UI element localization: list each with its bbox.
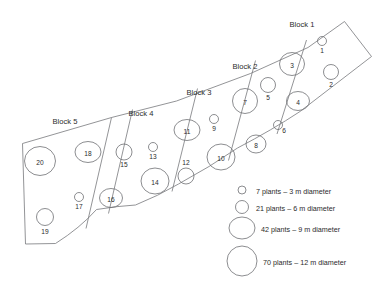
plot-label-15: 15 xyxy=(120,161,128,168)
legend-12m: 70 plants – 12 m diameter xyxy=(227,246,347,276)
block-divider-group xyxy=(86,40,307,229)
block-divider-5 xyxy=(86,118,112,229)
plot-label-12: 12 xyxy=(182,159,190,166)
plot-circle-12[interactable] xyxy=(178,168,194,184)
plot-label-3: 3 xyxy=(290,62,294,69)
legend-12m-text: 70 plants – 12 m diameter xyxy=(263,258,347,267)
plot-label-4: 4 xyxy=(296,99,300,106)
plot-14[interactable]: 14 xyxy=(141,168,169,194)
block-label-1: Block 1 xyxy=(290,20,315,29)
field-east-edge xyxy=(300,57,372,112)
plot-7[interactable]: 7 xyxy=(233,89,258,114)
block-label-2: Block 2 xyxy=(233,62,258,71)
plot-label-8: 8 xyxy=(254,142,258,149)
plot-label-17: 17 xyxy=(75,203,83,210)
plot-label-16: 16 xyxy=(107,196,115,203)
plot-circle-13[interactable] xyxy=(149,143,158,152)
block-divider-1 xyxy=(277,40,307,134)
plot-circle-2[interactable] xyxy=(324,65,339,80)
block-label-5: Block 5 xyxy=(53,117,78,126)
plot-circle-5[interactable] xyxy=(261,78,276,93)
plot-2[interactable]: 2 xyxy=(324,65,339,89)
plot-11[interactable]: 11 xyxy=(174,120,200,141)
plot-4[interactable]: 4 xyxy=(287,92,310,111)
plot-3[interactable]: 3 xyxy=(280,53,305,76)
plot-circle-9[interactable] xyxy=(210,115,219,124)
plot-19[interactable]: 19 xyxy=(37,209,54,236)
plot-13[interactable]: 13 xyxy=(149,143,158,161)
legend-6m-swatch xyxy=(236,201,249,214)
plot-16[interactable]: 16 xyxy=(100,189,123,208)
block-label-4: Block 4 xyxy=(129,109,154,118)
plot-circle-17[interactable] xyxy=(75,193,84,202)
plot-label-9: 9 xyxy=(212,125,216,132)
legend-3m-text: 7 plants – 3 m diameter xyxy=(256,187,332,196)
legend-6m: 21 plants – 6 m diameter xyxy=(236,201,336,214)
field-northeast-edge xyxy=(345,22,372,57)
plot-label-7: 7 xyxy=(243,99,247,106)
plot-17[interactable]: 17 xyxy=(75,193,84,211)
plot-label-20: 20 xyxy=(36,159,44,166)
plot-1[interactable]: 1 xyxy=(318,37,327,55)
legend-12m-swatch xyxy=(227,246,257,276)
plot-label-10: 10 xyxy=(217,155,225,162)
field-south-edge xyxy=(26,112,301,245)
figure-canvas: 1234567891011121314151617181920 Block 1B… xyxy=(0,0,373,294)
plot-9[interactable]: 9 xyxy=(210,115,219,133)
legend-9m-swatch xyxy=(229,217,255,239)
plot-5[interactable]: 5 xyxy=(261,78,276,102)
block-label-3: Block 3 xyxy=(187,88,212,97)
plot-label-13: 13 xyxy=(149,153,157,160)
plot-label-18: 18 xyxy=(84,150,92,157)
plot-label-14: 14 xyxy=(151,179,159,186)
plot-18[interactable]: 18 xyxy=(75,142,101,163)
field-diagram-svg: 1234567891011121314151617181920 Block 1B… xyxy=(0,0,373,294)
plot-label-11: 11 xyxy=(184,128,191,135)
legend: 7 plants – 3 m diameter21 plants – 6 m d… xyxy=(227,186,347,276)
plot-10[interactable]: 10 xyxy=(207,144,235,170)
plot-label-5: 5 xyxy=(266,94,270,101)
block-label-layer: Block 1Block 2Block 3Block 4Block 5 xyxy=(53,20,315,126)
plot-label-19: 19 xyxy=(41,228,49,235)
plot-label-1: 1 xyxy=(320,47,324,54)
legend-9m-text: 42 plants – 9 m diameter xyxy=(261,225,341,234)
legend-6m-text: 21 plants – 6 m diameter xyxy=(256,204,336,213)
plot-label-2: 2 xyxy=(329,81,333,88)
legend-9m: 42 plants – 9 m diameter xyxy=(229,217,341,239)
legend-3m: 7 plants – 3 m diameter xyxy=(238,186,332,196)
plot-label-6: 6 xyxy=(282,127,286,134)
legend-3m-swatch xyxy=(238,186,246,194)
plot-20[interactable]: 20 xyxy=(25,147,56,176)
plot-circle-19[interactable] xyxy=(37,209,54,226)
